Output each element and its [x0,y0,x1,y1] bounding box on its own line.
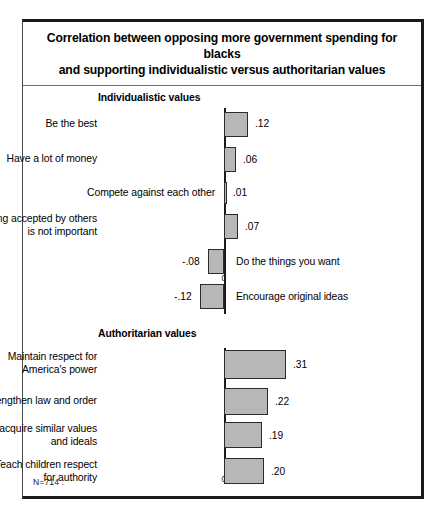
chart-title: Correlation between opposing more govern… [33,30,411,78]
bar-row-label: Maintain respect for America's power [0,351,97,376]
bar-value-label: .19 [269,431,283,441]
section-heading-individualistic: Individualistic values [98,92,200,103]
figure-frame: Correlation between opposing more govern… [22,19,424,499]
chart-title-line-2: and supporting individualistic versus au… [33,62,411,78]
bar-value-label: .07 [245,222,259,232]
plot-area: Individualistic values 0 Be the best .12… [23,86,421,504]
bar-value-label: .06 [243,155,257,165]
bar [224,182,227,204]
bar-value-label: -.08 [182,257,200,267]
bar-row-label: Encourage original ideas [236,291,411,303]
bar [208,249,224,274]
bar-value-label: .20 [271,467,285,477]
bar [224,422,262,448]
bar [224,147,236,172]
chart-title-line-1: Correlation between opposing more govern… [33,30,411,62]
bar [224,458,264,484]
bar-value-label: -.12 [174,292,192,302]
bar-row-label: Compete against each other [45,187,215,199]
bar [224,112,248,137]
bar [200,284,224,309]
zero-axis-individualistic-lower [224,272,226,314]
bar-row-label: Strengthen law and order [0,395,97,407]
bar-row-label: Do the things you want [236,256,411,268]
bar-row-label: Have a lot of money [0,153,97,165]
bar-value-label: .31 [293,360,307,370]
bar-value-label: .01 [233,188,247,198]
bar [224,350,286,379]
title-block: Correlation between opposing more govern… [23,22,421,86]
footnote: N=714 . [33,477,64,487]
bar [224,388,268,415]
bar-row-label: Be the best [0,118,97,130]
bar-value-label: .22 [275,397,289,407]
bar-value-label: .12 [255,119,269,129]
bar-row-label: Being accepted by others is not importan… [0,213,97,238]
section-heading-authoritarian: Authoritarian values [98,328,196,339]
bar-row-label: All acquire similar values and ideals [0,423,97,448]
bar [224,214,238,239]
